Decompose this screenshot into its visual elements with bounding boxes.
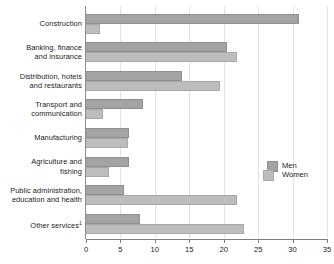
bar-women [86, 224, 244, 234]
bar-group [86, 71, 327, 91]
bar-women [86, 109, 103, 119]
bar-women [86, 52, 237, 62]
category-label: Other services1 [0, 219, 82, 231]
bar-men [86, 14, 299, 24]
legend-swatch-women [263, 170, 274, 181]
x-axis-tick [189, 239, 190, 243]
bar-women [86, 167, 109, 177]
x-axis-tick [293, 239, 294, 243]
plot-area [86, 6, 327, 238]
x-axis-tick [86, 239, 87, 243]
legend-label-women: Women [282, 170, 308, 180]
category-label: Public administration,education and heal… [0, 186, 82, 204]
x-axis-line [86, 239, 327, 240]
category-label: Agriculture andfishing [0, 157, 82, 175]
x-axis-tick-label: 5 [118, 245, 122, 254]
bar-group [86, 42, 327, 62]
category-label: Construction [0, 19, 82, 28]
x-axis-tick-label: 35 [323, 245, 331, 254]
bar-women [86, 81, 220, 91]
category-label: Distribution, hotelsand restaurants [0, 72, 82, 90]
y-axis-line [85, 6, 86, 239]
x-axis-tick-label: 20 [219, 245, 227, 254]
footnote-marker: 1 [79, 220, 82, 226]
x-axis-tick [224, 239, 225, 243]
bar-men [86, 71, 182, 81]
x-axis-tick [120, 239, 121, 243]
x-axis-tick [155, 239, 156, 243]
bar-women [86, 138, 128, 148]
x-axis-tick-label: 25 [254, 245, 262, 254]
bar-women [86, 195, 237, 205]
bar-group [86, 99, 327, 119]
chart-legend: Men Women [263, 161, 331, 191]
bar-men [86, 185, 124, 195]
bar-men [86, 99, 143, 109]
legend-label-men: Men [282, 161, 297, 171]
x-axis-tick [258, 239, 259, 243]
bar-group [86, 14, 327, 34]
category-label: Banking, financeand insurance [0, 43, 82, 61]
x-axis-tick-label: 10 [151, 245, 159, 254]
bar-men [86, 128, 129, 138]
x-axis-tick [327, 239, 328, 243]
category-label: Manufacturing [0, 133, 82, 142]
x-axis-tick-label: 0 [84, 245, 88, 254]
bar-group [86, 128, 327, 148]
category-label: Transport andcommunication [0, 100, 82, 118]
grouped-bar-chart: ConstructionBanking, financeand insuranc… [0, 0, 334, 264]
bar-men [86, 214, 140, 224]
category-label-column: ConstructionBanking, financeand insuranc… [0, 0, 82, 238]
bar-men [86, 157, 129, 167]
bar-group [86, 214, 327, 234]
bar-women [86, 24, 100, 34]
x-axis-tick-label: 15 [185, 245, 193, 254]
gridline [327, 6, 328, 238]
bar-men [86, 42, 227, 52]
x-axis-tick-label: 30 [288, 245, 296, 254]
